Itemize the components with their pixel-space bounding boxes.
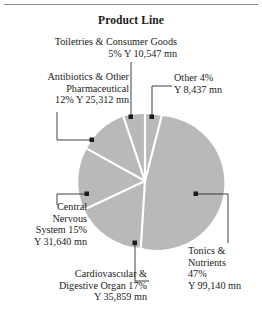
slice-label-central-nervous-system: Central Nervous System 15% Y 31,640 mn	[34, 201, 87, 247]
leader-dot-cns	[85, 192, 90, 197]
label-line: Central	[34, 201, 87, 213]
label-line: 47%	[188, 268, 241, 280]
slice-label-toiletries-consumer-goods: Toiletries & Consumer Goods 5% Y 10,547 …	[55, 36, 177, 59]
label-line: Antibiotics & Other	[48, 71, 130, 83]
label-line: 12% Y 25,312 mn	[48, 94, 130, 106]
label-line: Other 4%	[174, 72, 222, 84]
label-line: Toiletries & Consumer Goods	[55, 36, 177, 48]
label-line: Y 8,437 mn	[174, 84, 222, 96]
label-line: Y 31,640 mn	[34, 236, 87, 248]
leader-dot-other	[150, 115, 155, 120]
leader-line-antibiotics	[57, 112, 92, 140]
label-line: 5% Y 10,547 mn	[55, 48, 177, 60]
leader-dot-cardio	[133, 241, 138, 246]
label-line: Pharmaceutical	[48, 83, 130, 95]
label-line: Tonics &	[188, 245, 241, 257]
slice-label-antibiotics-pharmaceutical: Antibiotics & Other Pharmaceutical 12% Y…	[48, 71, 130, 106]
label-line: System 15%	[34, 224, 87, 236]
chart-page: Product Line	[0, 0, 262, 314]
slice-label-cardiovascular-digestive: Cardiovascular & Digestive Organ 17% Y 3…	[59, 268, 147, 303]
label-line: Nervous	[34, 213, 87, 225]
pie-slices	[78, 114, 224, 250]
slice-label-tonics-nutrients: Tonics & Nutrients 47% Y 99,140 mn	[188, 245, 241, 291]
slice-label-other: Other 4% Y 8,437 mn	[174, 72, 222, 95]
label-line: Y 35,859 mn	[59, 291, 147, 303]
leader-dot-toiletries	[129, 115, 134, 120]
label-line: Y 99,140 mn	[188, 280, 241, 292]
leader-dot-tonics	[194, 192, 199, 197]
label-line: Digestive Organ 17%	[59, 280, 147, 292]
leader-dot-antibiotics	[90, 138, 95, 143]
label-line: Nutrients	[188, 257, 241, 269]
label-line: Cardiovascular &	[59, 268, 147, 280]
leader-line-other	[152, 86, 172, 117]
